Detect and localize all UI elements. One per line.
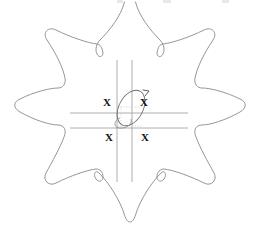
center-guide-lines	[70, 60, 188, 182]
flower-pattern-drawing	[0, 0, 253, 235]
x-marker-top-left: X	[103, 97, 111, 108]
x-marker-top-right: X	[140, 97, 148, 108]
x-marker-bottom-right: X	[141, 132, 149, 143]
petal-outline-path	[15, 2, 246, 222]
pattern-figure: X X X X	[0, 0, 253, 235]
flower-outline-group	[15, 2, 246, 222]
x-marker-bottom-left: X	[105, 132, 113, 143]
ellipse-inner-swirl-icon	[115, 118, 131, 128]
